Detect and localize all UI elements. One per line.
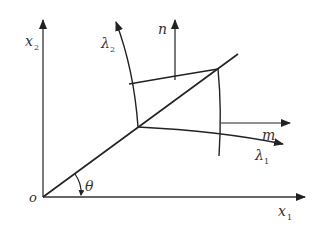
diagram-canvas: o x 2 x 1 λ 2 λ 1 n m θ	[0, 0, 320, 228]
svg-text:x: x	[278, 203, 286, 219]
label-origin: o	[29, 190, 37, 205]
right-edge-curve	[218, 69, 220, 156]
svg-text:2: 2	[34, 43, 39, 52]
svg-text:λ: λ	[254, 147, 264, 163]
label-x2: x 2	[25, 33, 39, 52]
svg-text:x: x	[25, 33, 33, 49]
top-edge-curve	[129, 69, 218, 84]
label-x1: x 1	[278, 203, 292, 222]
svg-text:1: 1	[287, 213, 292, 222]
label-lambda1: λ 1	[254, 147, 269, 166]
label-n: n	[158, 21, 167, 37]
lambda2-curve	[116, 22, 138, 127]
theta-angle-arc	[75, 174, 81, 195]
svg-text:λ: λ	[100, 35, 110, 51]
svg-text:2: 2	[110, 45, 115, 54]
label-m: m	[262, 127, 275, 143]
diagonal-line	[43, 54, 238, 197]
svg-text:1: 1	[264, 157, 269, 166]
label-theta: θ	[85, 178, 94, 194]
label-lambda2: λ 2	[100, 35, 115, 54]
